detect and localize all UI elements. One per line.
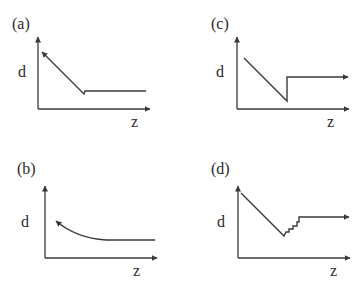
- curve: [244, 58, 348, 101]
- figure-canvas: (a) d z (c) d z (b) d z (d) d z: [0, 0, 362, 287]
- x-axis-label: z: [131, 113, 138, 130]
- y-axis-label: d: [18, 63, 26, 80]
- x-axis-label: z: [133, 262, 140, 279]
- panel-label: (d): [211, 160, 230, 178]
- panel-b: (b) d z: [17, 160, 157, 279]
- y-axis-label: d: [216, 63, 224, 80]
- curve: [241, 193, 349, 236]
- panel-label: (b): [17, 160, 36, 178]
- curve: [56, 221, 155, 240]
- y-axis-label: d: [21, 213, 29, 230]
- panel-d: (d) d z: [211, 160, 350, 279]
- panel-c: (c) d z: [211, 15, 349, 130]
- panel-label: (a): [12, 15, 30, 33]
- panel-a: (a) d z: [12, 15, 150, 130]
- x-axis-label: z: [330, 262, 337, 279]
- y-axis-label: d: [217, 213, 225, 230]
- curve: [42, 52, 146, 94]
- x-axis-label: z: [327, 113, 334, 130]
- panel-label: (c): [211, 15, 229, 33]
